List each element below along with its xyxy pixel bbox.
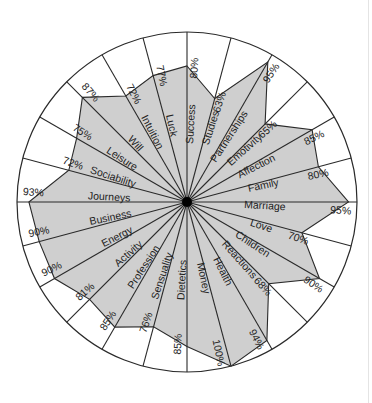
category-label-journeys: Journeys xyxy=(88,189,131,203)
radar-chart: SuccessStudiesPartnershipsEmotivityAffec… xyxy=(0,0,372,403)
value-label-marriage: 95% xyxy=(330,203,352,216)
value-label-success: 80% xyxy=(187,57,200,79)
category-label-dietetics: Dietetics xyxy=(174,259,188,300)
value-label-dietetics: 85% xyxy=(171,333,184,355)
center-dot xyxy=(182,197,192,207)
category-label-success: Success xyxy=(183,104,197,144)
category-label-marriage: Marriage xyxy=(244,198,286,212)
value-label-journeys: 93% xyxy=(23,185,45,198)
